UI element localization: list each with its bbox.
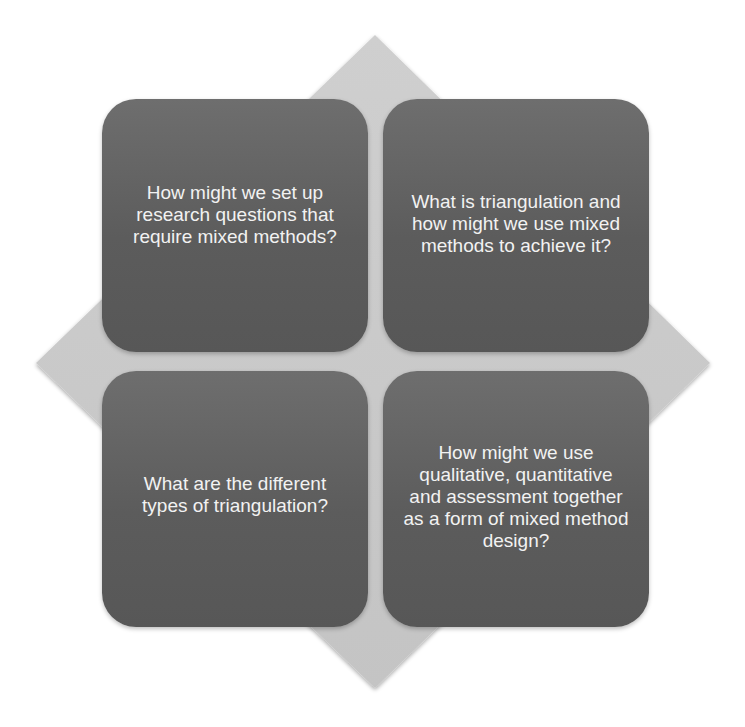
quadrant-text: How might we set up research questions t… xyxy=(102,182,368,270)
quadrant-text: What is triangulation and how might we u… xyxy=(383,191,649,261)
quadrant-top-right: What is triangulation and how might we u… xyxy=(383,99,649,352)
quadrant-top-left: How might we set up research questions t… xyxy=(102,99,368,352)
quadrant-bottom-left: What are the different types of triangul… xyxy=(102,371,368,627)
quadrant-text: How might we use qualitative, quantitati… xyxy=(383,442,649,556)
quadrant-bottom-right: How might we use qualitative, quantitati… xyxy=(383,371,649,627)
diagram: How might we set up research questions t… xyxy=(0,0,745,727)
quadrant-text: What are the different types of triangul… xyxy=(102,473,368,525)
